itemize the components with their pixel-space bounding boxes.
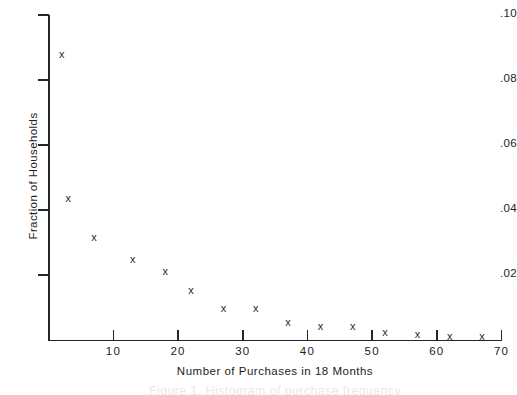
data-point-marker: x: [314, 320, 327, 333]
y-axis-tick: [38, 274, 49, 276]
x-axis-tick: [371, 330, 373, 341]
data-point-marker: x: [88, 231, 101, 244]
x-axis-line: [48, 340, 502, 342]
x-axis-tick-label: 30: [223, 345, 263, 357]
x-axis-tick-label: 20: [158, 345, 198, 357]
x-axis-tick: [177, 330, 179, 341]
x-axis-tick-label: 10: [93, 345, 133, 357]
x-axis-tick-label: 70: [482, 345, 517, 357]
y-axis-tick-label: .08: [483, 72, 517, 84]
y-axis-tick: [38, 209, 49, 211]
x-axis-tick: [113, 330, 115, 341]
y-axis-tick-label: .02: [483, 267, 517, 279]
data-point-marker: x: [476, 330, 489, 343]
y-axis-label: Fraction of Households: [27, 86, 39, 266]
data-point-marker: x: [62, 192, 75, 205]
data-point-marker: x: [217, 302, 230, 315]
data-point-marker: x: [249, 302, 262, 315]
y-axis-line: [48, 15, 50, 341]
data-point-marker: x: [159, 265, 172, 278]
x-axis-label: Number of Purchases in 18 Months: [48, 365, 502, 377]
data-point-marker: x: [411, 328, 424, 341]
chart-figure: Fraction of Households .02.04.06.08.1010…: [0, 0, 517, 395]
y-axis-tick-label: .06: [483, 137, 517, 149]
figure-caption: Figure 1. Histogram of purchase frequenc…: [48, 384, 502, 395]
data-point-marker: x: [282, 316, 295, 329]
data-point-marker: x: [55, 48, 68, 61]
y-axis-tick: [38, 14, 49, 16]
data-point-marker: x: [185, 284, 198, 297]
x-axis-tick: [501, 330, 503, 341]
y-axis-tick: [38, 79, 49, 81]
x-axis-tick: [436, 330, 438, 341]
data-point-marker: x: [346, 320, 359, 333]
x-axis-tick-label: 60: [417, 345, 457, 357]
x-axis-tick: [242, 330, 244, 341]
data-point-marker: x: [379, 326, 392, 339]
y-axis-tick-label: .04: [483, 202, 517, 214]
data-point-marker: x: [126, 253, 139, 266]
data-point-marker: x: [443, 330, 456, 343]
x-axis-tick-label: 40: [287, 345, 327, 357]
x-axis-tick-label: 50: [352, 345, 392, 357]
x-axis-tick: [307, 330, 309, 341]
y-axis-tick-label: .10: [483, 7, 517, 19]
y-axis-tick: [38, 144, 49, 146]
